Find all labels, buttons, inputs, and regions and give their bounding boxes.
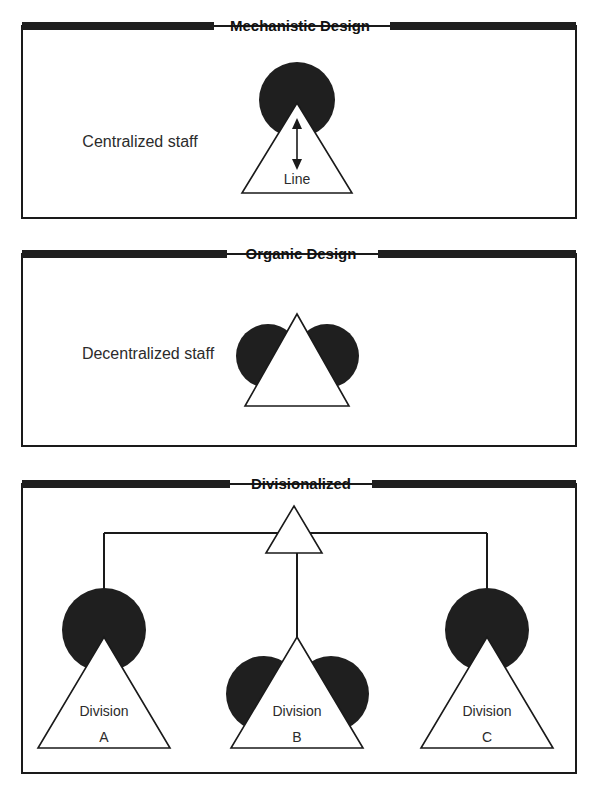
- division-a-unit: Division A: [38, 588, 170, 748]
- division-c-letter: C: [482, 729, 492, 745]
- division-c-unit: Division C: [421, 588, 553, 748]
- division-b-letter: B: [292, 729, 301, 745]
- division-a-label: Division: [79, 703, 128, 719]
- division-b-label: Division: [272, 703, 321, 719]
- divisionalized-corporate-triangle: [266, 506, 322, 553]
- division-b-unit: Division B: [226, 637, 369, 748]
- panel-mechanistic-title-rule-left: [22, 22, 214, 30]
- panel-mechanistic: Mechanistic Design Centralized staff Lin…: [22, 17, 576, 218]
- panel-mechanistic-title-rule-right: [390, 22, 576, 30]
- panel-organic-title-rule-right: [378, 250, 576, 258]
- mechanistic-line-label: Line: [284, 171, 311, 187]
- panel-divisionalized-title: Divisionalized: [251, 475, 351, 492]
- panel-divisionalized-title-rule-right: [372, 480, 576, 488]
- panel-divisionalized: Divisionalized Division A: [22, 475, 576, 773]
- panel-mechanistic-title: Mechanistic Design: [230, 17, 370, 34]
- organic-staff-label: Decentralized staff: [82, 345, 215, 362]
- division-c-label: Division: [462, 703, 511, 719]
- division-a-letter: A: [99, 729, 109, 745]
- mechanistic-staff-label: Centralized staff: [82, 133, 198, 150]
- panel-organic-title: Organic Design: [246, 245, 357, 262]
- panel-organic: Organic Design Decentralized staff: [22, 245, 576, 446]
- panel-organic-title-rule-left: [22, 250, 227, 258]
- panel-divisionalized-title-rule-left: [22, 480, 230, 488]
- organization-design-diagram: Mechanistic Design Centralized staff Lin…: [0, 0, 596, 789]
